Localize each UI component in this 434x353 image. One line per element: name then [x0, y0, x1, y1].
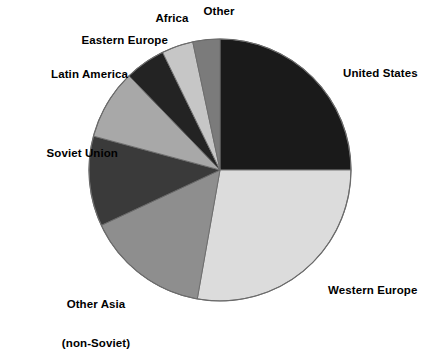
pie-slice-group [89, 39, 351, 301]
pie-label-latin-america: Latin America [18, 68, 128, 81]
pie-label-other-asia-line1: Other Asia [30, 298, 162, 311]
pie-slice-united-states[interactable] [220, 39, 351, 170]
pie-label-soviet-union: Soviet Union [8, 147, 118, 160]
pie-label-other: Other [190, 5, 248, 18]
pie-label-united-states: United States [343, 67, 418, 80]
pie-label-eastern-europe: Eastern Europe [58, 34, 168, 47]
pie-label-other-asia: Other Asia (non-Soviet) [30, 272, 162, 353]
pie-slice-western-europe[interactable] [197, 170, 351, 301]
pie-label-other-asia-line2: (non-Soviet) [30, 337, 162, 350]
pie-label-western-europe: Western Europe [328, 284, 417, 297]
